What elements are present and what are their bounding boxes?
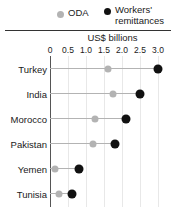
- dumbbell-chart: ODA Workers' remittances US$ billions 00…: [0, 0, 175, 207]
- x-tick-label: 2.5: [134, 45, 146, 55]
- data-point-remittances: [67, 189, 76, 198]
- category-label: Morocco: [11, 113, 47, 124]
- x-tick-label: 1.0: [80, 45, 92, 55]
- connector-line: [50, 143, 115, 145]
- chart-row: Pakistan: [0, 131, 175, 156]
- category-label: Pakistan: [11, 138, 47, 149]
- chart-row: Yemen: [0, 156, 175, 181]
- data-point-oda: [90, 140, 97, 147]
- connector-line: [50, 93, 140, 95]
- data-point-oda: [56, 190, 63, 197]
- chart-row: India: [0, 81, 175, 106]
- data-point-remittances: [74, 164, 83, 173]
- legend-item-oda: ODA: [57, 8, 89, 19]
- data-point-oda: [52, 165, 59, 172]
- chart-row: Tunisia: [0, 181, 175, 206]
- chart-row: Morocco: [0, 106, 175, 131]
- legend-divider: [5, 30, 171, 31]
- x-tick-label: 0.5: [62, 45, 74, 55]
- x-axis-title: US$ billions: [50, 32, 175, 43]
- plot-area: TurkeyIndiaMoroccoPakistanYemenTunisia: [0, 56, 175, 207]
- x-tick-label: 0: [48, 45, 53, 55]
- category-label: Turkey: [18, 63, 47, 74]
- x-tick-label: 2.0: [116, 45, 128, 55]
- circle-black-icon: [104, 8, 111, 15]
- x-tick-label: 3.0: [152, 45, 164, 55]
- data-point-remittances: [121, 114, 130, 123]
- circle-grey-icon: [57, 11, 64, 18]
- connector-line: [50, 118, 126, 120]
- legend-label-oda: ODA: [68, 8, 89, 19]
- data-point-remittances: [136, 89, 145, 98]
- chart-row: Turkey: [0, 56, 175, 81]
- category-label: Yemen: [18, 163, 47, 174]
- legend-label-remittances: Workers' remittances: [115, 5, 164, 26]
- legend-item-remittances: Workers' remittances: [104, 5, 164, 26]
- data-point-remittances: [154, 64, 163, 73]
- category-label: India: [26, 88, 47, 99]
- data-point-oda: [110, 90, 117, 97]
- data-point-oda: [92, 115, 99, 122]
- category-label: Tunisia: [17, 188, 47, 199]
- data-point-remittances: [110, 139, 119, 148]
- data-point-oda: [104, 65, 111, 72]
- x-tick-label: 1.5: [98, 45, 110, 55]
- chart-legend: ODA Workers' remittances: [0, 0, 175, 30]
